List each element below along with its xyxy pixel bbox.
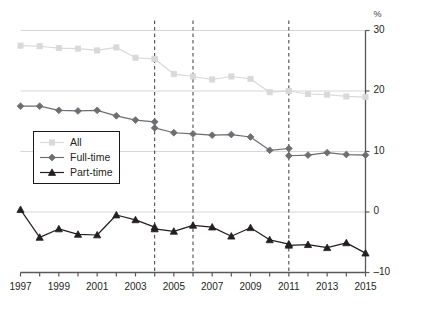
legend-item-all[interactable]: All [39,135,113,150]
y-axis-tick-label: 0 [374,205,380,216]
data-point-marker [49,154,56,161]
data-point-marker [305,91,310,96]
data-point-marker [151,125,158,132]
data-point-marker [266,236,273,242]
chart-legend: AllFull-timePart-time [33,131,120,184]
data-point-marker [190,131,197,138]
data-point-marker [36,103,43,110]
data-point-marker [228,233,235,239]
data-point-marker [56,45,61,50]
data-point-marker [324,149,331,156]
legend-marker-triangle-icon [39,167,65,178]
data-point-marker [363,94,368,99]
data-point-marker [152,56,157,61]
data-point-marker [247,224,254,230]
data-point-marker [37,44,42,49]
x-axis-tick-label: 2015 [348,281,384,292]
data-point-marker [18,43,23,48]
data-point-marker [94,107,101,114]
x-axis-tick-label: 2009 [233,281,269,292]
data-point-marker [75,46,80,51]
legend-item-label: All [70,137,82,148]
data-point-marker [55,107,62,114]
series-line [21,210,155,238]
legend-item-part-time[interactable]: Part-time [39,165,113,180]
x-axis-tick-label: 2011 [271,281,307,292]
data-point-marker [17,103,24,110]
data-point-marker [49,140,54,145]
y-axis-unit-label: % [374,9,382,19]
data-point-marker [55,225,62,231]
x-axis-tick-label: 1999 [41,281,77,292]
data-point-marker [17,206,24,212]
data-point-marker [343,239,350,245]
x-axis-tick-label: 2001 [79,281,115,292]
data-point-marker [133,55,138,60]
data-point-marker [229,74,234,79]
data-point-marker [95,48,100,53]
y-axis-tick-label: 30 [374,24,385,35]
x-axis-tick-label: 2007 [194,281,230,292]
data-point-marker [171,71,176,76]
chart-container: % AllFull-timePart-time –100102030199719… [0,0,424,315]
data-point-marker [170,129,177,136]
data-point-marker [362,250,369,256]
data-point-marker [344,94,349,99]
data-point-marker [362,152,369,159]
data-point-marker [285,152,292,159]
data-point-marker [325,92,330,97]
x-axis-tick-label: 2013 [309,281,345,292]
legend-item-label: Part-time [70,167,113,178]
y-axis-tick-label: 10 [374,145,385,156]
data-point-marker [248,76,253,81]
data-point-marker [286,88,291,93]
x-axis-tick-label: 2005 [156,281,192,292]
data-point-marker [343,151,350,158]
data-point-marker [267,90,272,95]
data-point-marker [75,108,82,115]
y-axis-tick-label: –10 [374,266,391,277]
data-point-marker [210,77,215,82]
legend-marker-square-icon [39,137,65,148]
x-axis-tick-label: 1997 [3,281,39,292]
data-point-marker [209,132,216,139]
x-axis-tick-label: 2003 [118,281,154,292]
data-point-marker [285,145,292,152]
data-point-marker [132,117,139,124]
data-point-marker [114,45,119,50]
legend-marker-diamond-icon [39,152,65,163]
data-point-marker [113,112,120,119]
data-point-marker [190,74,195,79]
legend-item-label: Full-time [70,152,110,163]
data-point-marker [228,131,235,138]
y-axis-tick-label: 20 [374,84,385,95]
data-point-marker [305,152,312,159]
legend-item-full-time[interactable]: Full-time [39,150,113,165]
